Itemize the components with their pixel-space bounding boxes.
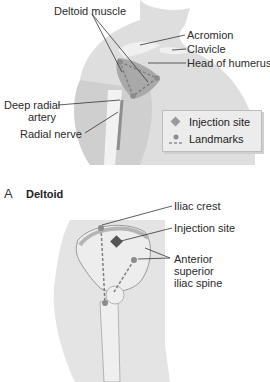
label-radial-nerve: Radial nerve <box>20 128 82 140</box>
label-injection-site: Injection site <box>174 222 235 234</box>
label-acromion: Acromion <box>187 29 233 41</box>
label-deep-radial-artery-line1: Deep radial <box>4 99 56 111</box>
label-anterior-superior-iliac-spine: Anterior superior iliac spine <box>174 253 222 289</box>
panel-caption: A Deltoid <box>4 186 63 201</box>
label-clavicle: Clavicle <box>187 43 226 55</box>
label-deep-radial-artery: Deep radial artery <box>4 99 56 123</box>
label-deltoid-muscle: Deltoid muscle <box>54 5 126 17</box>
label-asis-line2: superior <box>174 265 222 277</box>
panel-letter: A <box>4 186 13 201</box>
dot-dash-icon <box>169 133 183 145</box>
panel-title: Deltoid <box>26 188 63 200</box>
label-asis-line1: Anterior <box>174 253 222 265</box>
ventrogluteal-panel-art <box>54 206 172 382</box>
legend-injection-site-label: Injection site <box>189 116 250 128</box>
diamond-icon <box>169 116 183 128</box>
label-head-of-humerus: Head of humerus <box>187 57 270 69</box>
legend-landmarks: Landmarks <box>169 133 243 145</box>
legend-landmarks-label: Landmarks <box>189 133 243 145</box>
label-asis-line3: iliac spine <box>174 277 222 289</box>
label-deep-radial-artery-line2: artery <box>4 111 56 123</box>
legend-injection-site: Injection site <box>169 116 250 128</box>
label-iliac-crest: Iliac crest <box>174 200 220 212</box>
legend: Injection site Landmarks <box>162 110 262 152</box>
